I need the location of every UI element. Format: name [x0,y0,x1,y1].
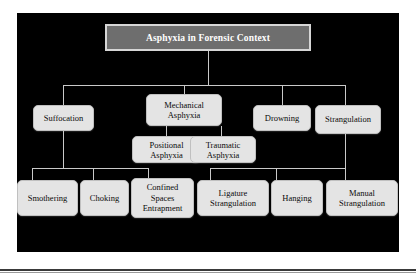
node-smothering[interactable]: Smothering [17,180,78,216]
node-suffocation[interactable]: Suffocation [33,105,94,131]
node-choking[interactable]: Choking [80,180,129,216]
connector-drop-manual-strangulation [345,168,346,180]
node-strangulation-label: Strangulation [325,114,371,125]
node-manual-strangulation-label-line1: Manual [349,188,375,198]
node-strangulation[interactable]: Strangulation [315,105,381,134]
diagram-title-label: Asphyxia in Forensic Context [146,33,270,43]
connector-drop-strangulation [345,85,346,105]
connector-strangulation-stem [345,131,346,168]
node-hanging-label: Hanging [282,193,311,204]
node-confined-spaces-entrapment[interactable]: Confined Spaces Entrapment [131,178,194,218]
node-ligature-strangulation-label-line2: Strangulation [210,198,256,208]
connector-drop-ligature-strangulation [210,168,211,180]
node-traumatic-asphyxia-label-line1: Traumatic [206,140,241,150]
node-root-title[interactable]: Asphyxia in Forensic Context [105,24,311,51]
node-hanging[interactable]: Hanging [271,180,323,216]
connector-strangulation-bus [210,168,346,169]
node-manual-strangulation-label-line2: Strangulation [339,198,385,208]
node-confined-spaces-entrapment-label-line2: Spaces [151,193,175,204]
connector-level1-bus [63,85,346,86]
node-drowning-label: Drowning [265,113,299,124]
connector-drop-suffocation [63,85,64,105]
node-choking-label: Choking [90,193,119,204]
node-ligature-strangulation[interactable]: Ligature Strangulation [197,180,269,216]
node-traumatic-asphyxia[interactable]: Traumatic Asphyxia [190,136,256,163]
connector-drop-drowning [282,85,283,105]
bottom-divider-rule [0,269,416,271]
diagram-page: Suffocation Mechanical Asphyxia Drowning… [0,0,416,278]
connector-drop-hanging [276,168,277,180]
node-manual-strangulation[interactable]: Manual Strangulation [326,180,398,216]
node-confined-spaces-entrapment-label-line1: Confined [147,182,179,193]
node-traumatic-asphyxia-label-line2: Asphyxia [207,150,240,160]
node-smothering-label: Smothering [28,193,68,204]
node-confined-spaces-entrapment-label-line3: Entrapment [143,203,183,214]
connector-suffocation-stem [63,131,64,168]
connector-drop-traumatic-asphyxia [221,126,222,136]
connector-drop-positional-asphyxia [166,126,167,136]
bottom-divider-rule-light [0,272,416,273]
connector-root-stem [208,51,209,85]
node-positional-asphyxia-label-line2: Asphyxia [150,150,183,160]
connector-suffocation-bus [32,168,149,169]
node-mechanical-asphyxia[interactable]: Mechanical Asphyxia [146,94,222,126]
connector-drop-smothering [32,168,33,180]
connector-drop-choking [93,168,94,180]
connector-drop-mechanical-asphyxia [184,85,185,94]
node-positional-asphyxia-label-line1: Positional [149,140,183,150]
node-ligature-strangulation-label-line1: Ligature [219,188,248,198]
node-mechanical-asphyxia-label-line1: Mechanical [164,100,204,110]
node-suffocation-label: Suffocation [44,113,84,124]
node-mechanical-asphyxia-label-line2: Asphyxia [168,110,201,120]
node-drowning[interactable]: Drowning [253,105,311,131]
